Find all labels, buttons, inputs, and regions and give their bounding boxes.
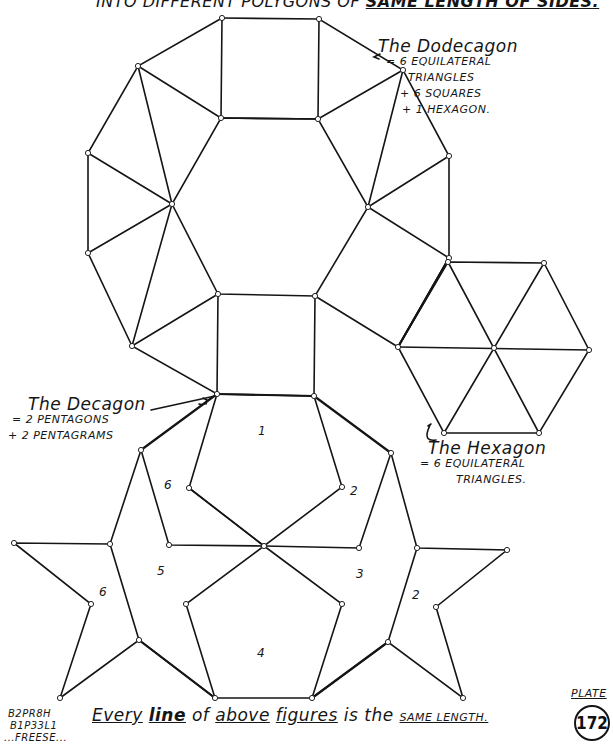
region-number: 4 xyxy=(257,646,265,660)
footer-word: above xyxy=(215,705,270,725)
region-number: 2 xyxy=(412,588,420,602)
reference-code: B2PR8H B1P33L1 ...FREESE... xyxy=(4,708,67,744)
code-line3: ...FREESE... xyxy=(4,732,67,744)
footer-word: line xyxy=(149,705,186,725)
region-number: 6 xyxy=(164,478,172,492)
dodecagon-line1: = 6 EQUILATERAL xyxy=(378,54,518,70)
plate-number-badge: 172 xyxy=(574,705,610,741)
plate-label: PLATE xyxy=(571,687,607,700)
decagon-label: The Decagon = 2 PENTAGONS + 2 PENTAGRAMS xyxy=(8,396,146,444)
hexagon-line2: TRIANGLES. xyxy=(420,472,546,488)
region-number: 1 xyxy=(258,424,266,438)
polygon-diagram xyxy=(0,0,613,755)
dodecagon-name: The Dodecagon xyxy=(378,38,518,54)
region-number: 2 xyxy=(350,484,358,498)
footer-caption: Every line of above figures is the SAME … xyxy=(92,705,488,725)
dodecagon-line3: + 6 SQUARES xyxy=(378,86,518,102)
dodecagon-line4: + 1 HEXAGON. xyxy=(378,102,518,118)
code-line1: B2PR8H xyxy=(4,708,67,720)
dodecagon-line2: TRIANGLES xyxy=(378,70,518,86)
region-number: 5 xyxy=(157,564,165,578)
footer-word: is the xyxy=(344,705,394,725)
footer-emphasis: SAME LENGTH. xyxy=(400,711,489,724)
decagon-name: The Decagon xyxy=(8,396,146,412)
decagon-line1: = 2 PENTAGONS xyxy=(8,412,146,428)
hexagon-line1: = 6 EQUILATERAL xyxy=(420,456,546,472)
dodecagon-label: The Dodecagon = 6 EQUILATERAL TRIANGLES … xyxy=(378,38,518,118)
region-number: 6 xyxy=(99,585,107,599)
footer-word: of xyxy=(192,705,209,725)
footer-word: Every xyxy=(92,705,143,725)
decagon-line2: + 2 PENTAGRAMS xyxy=(8,428,146,444)
code-line2: B1P33L1 xyxy=(4,720,67,732)
footer-word: figures xyxy=(276,705,338,725)
hexagon-label: The Hexagon = 6 EQUILATERAL TRIANGLES. xyxy=(420,440,546,488)
region-number: 3 xyxy=(356,567,364,581)
hexagon-name: The Hexagon xyxy=(420,440,546,456)
